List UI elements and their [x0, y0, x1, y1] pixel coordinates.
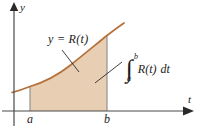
- x-tick-label-b: b: [104, 113, 110, 125]
- t-axis-arrowhead: [183, 107, 194, 116]
- differential-term: dt: [161, 63, 170, 75]
- curve-equation-label: y = R(t): [48, 33, 88, 45]
- integral-lower-limit: a: [127, 75, 131, 83]
- t-axis-label: t: [188, 94, 191, 105]
- integral-upper-limit: b: [134, 53, 138, 61]
- definite-integral-expression: ∫ b a R(t) dt: [126, 56, 170, 81]
- y-axis-arrowhead: [10, 2, 18, 11]
- shaded-area-region: [30, 36, 107, 112]
- y-axis-label: y: [20, 2, 25, 13]
- integrand-expression: R(t): [138, 63, 157, 75]
- area-under-curve-figure: y t a b y = R(t) ∫ b a R(t) dt: [0, 0, 207, 133]
- x-tick-label-a: a: [27, 113, 33, 125]
- integral-sign-group: ∫ b a: [126, 56, 133, 81]
